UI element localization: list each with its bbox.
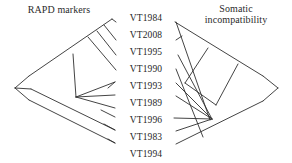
taxon-label-vt1984: VT1984 — [118, 12, 174, 25]
right-branch-root-upper — [263, 76, 278, 88]
right-spine-upper — [175, 22, 263, 76]
taxon-label-vt1993: VT1993 — [118, 80, 174, 93]
taxon-label-vt1994: VT1994 — [118, 148, 174, 161]
right-tree-branches — [174, 22, 278, 144]
taxon-label-vt1983: VT1983 — [118, 131, 174, 144]
taxon-label-vt1995: VT1995 — [118, 46, 174, 59]
right-clade-arm-a — [185, 83, 216, 105]
right-branch-root-lower — [263, 88, 278, 101]
taxon-label-vt1989: VT1989 — [118, 97, 174, 110]
right-cross-vt1996 — [174, 118, 212, 119]
taxon-label-vt2008: VT2008 — [118, 29, 174, 42]
right-clade-arm-b — [185, 48, 208, 83]
taxon-label-column: VT1984 VT2008 VT1995 VT1990 VT1993 VT198… — [118, 12, 174, 158]
right-clade-stem-outer — [216, 64, 238, 105]
taxon-label-vt1996: VT1996 — [118, 114, 174, 127]
right-spine-lower — [176, 101, 263, 144]
taxon-label-vt1990: VT1990 — [118, 63, 174, 76]
tanglegram-figure: RAPD markers Somatic incompatibility — [0, 0, 292, 163]
